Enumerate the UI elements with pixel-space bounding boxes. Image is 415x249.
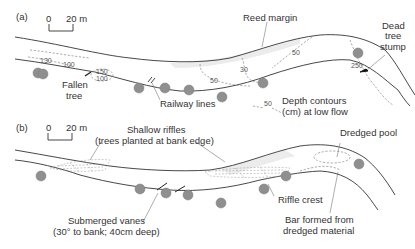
- dredged-pool-outline: [314, 151, 350, 163]
- tree-icon: [135, 184, 145, 194]
- label-fallen-tree-1: Fallen: [62, 79, 88, 90]
- label-bar-1: Bar formed from: [285, 214, 354, 225]
- tree-icon: [258, 78, 268, 88]
- scale-end: 20 m: [66, 13, 87, 24]
- panel-a-trees: [33, 48, 363, 102]
- label-riffle-crest: Riffle crest: [278, 194, 323, 205]
- leader-submerged-vanes: [143, 193, 158, 222]
- label-fallen-tree-2: tree: [66, 90, 82, 101]
- label-depth-legend-1: Depth contours: [282, 95, 347, 106]
- depth-label-250: 250: [351, 62, 363, 69]
- label-railway-lines: Railway lines: [160, 98, 216, 109]
- reed-margin-shading: [170, 38, 300, 68]
- label-dead-tree-2: tree: [385, 30, 401, 41]
- label-submerged-vanes-1: Submerged vanes: [68, 215, 145, 226]
- depth-label-50b: 50: [292, 49, 300, 56]
- tree-icon: [281, 171, 291, 181]
- label-submerged-vanes-2: (30° to bank; 40cm deep): [53, 226, 160, 237]
- tree-icon: [183, 190, 193, 200]
- label-shallow-riffles-1: Shallow riffles: [127, 124, 186, 135]
- tree-icon: [354, 159, 364, 169]
- scale-zero: 0: [46, 13, 51, 24]
- depth-label-100b: 100: [96, 75, 108, 82]
- label-dredged-pool: Dredged pool: [340, 127, 397, 138]
- leader-dead-stump: [367, 55, 385, 70]
- tree-icon: [184, 85, 194, 95]
- leader-bar: [330, 172, 338, 213]
- tree-icon: [160, 83, 170, 93]
- legend-contour-sample-b: [272, 108, 282, 113]
- legend-sample-50: 50: [264, 100, 272, 107]
- fallen-tree-symbol: [85, 72, 91, 76]
- bar-outline: [300, 166, 340, 171]
- panel-a: (a) 0 20 m 130 100 150 100 50 30 50 250: [15, 11, 415, 117]
- scale-end-b: 20 m: [66, 122, 87, 133]
- label-shallow-riffles-2: (trees planted at bank edge): [95, 135, 214, 146]
- leader-dredged-pool: [337, 143, 340, 157]
- panel-a-label: (a): [16, 11, 28, 22]
- label-dead-tree-3: stump: [380, 41, 406, 52]
- depth-label-50: 50: [210, 77, 218, 84]
- leader-railway: [152, 83, 160, 100]
- tree-icon: [216, 198, 226, 208]
- submerged-vane-icon: [175, 186, 185, 192]
- depth-label-30: 30: [240, 66, 248, 73]
- depth-label-130: 130: [40, 57, 52, 64]
- panel-b-lower-bank: [15, 160, 378, 210]
- tree-icon: [134, 83, 144, 93]
- tree-icon: [353, 48, 363, 58]
- label-depth-legend-2: (cm) at low flow: [282, 106, 348, 117]
- scale-zero-b: 0: [46, 122, 51, 133]
- label-bar-2: dredged material: [283, 225, 354, 236]
- depth-label-150: 150: [96, 68, 108, 75]
- panel-b-label: (b): [16, 122, 28, 133]
- tree-icon: [259, 184, 269, 194]
- river-restoration-diagram: (a) 0 20 m 130 100 150 100 50 30 50 250: [0, 0, 415, 249]
- dead-tree-stump-icon: [360, 69, 368, 72]
- panel-b: (b) 0 20 m: [15, 122, 397, 237]
- depth-label-100: 100: [63, 61, 75, 68]
- leader-reed: [262, 22, 267, 47]
- legend-contour-sample: [253, 106, 264, 108]
- riffle-shading: [220, 150, 295, 175]
- panel-a-scale-bar: 0 20 m: [46, 13, 87, 31]
- railway-lines-icon: [148, 77, 155, 83]
- tree-icon: [161, 188, 171, 198]
- tree-icon: [36, 171, 46, 181]
- tree-icon: [217, 92, 227, 102]
- label-reed-margin: Reed margin: [243, 12, 297, 23]
- tree-icon: [38, 69, 48, 79]
- contour-130: [30, 50, 90, 58]
- panel-b-scale-bar: 0 20 m: [46, 122, 87, 140]
